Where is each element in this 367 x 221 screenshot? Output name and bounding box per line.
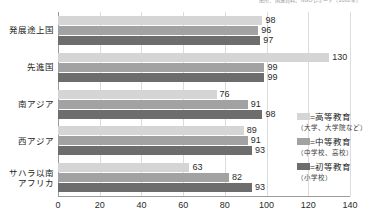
bar-value-label: 96 — [261, 25, 271, 35]
category-label: 発展途上国 — [0, 25, 54, 35]
bar — [58, 110, 262, 119]
bar-value-label: 82 — [232, 172, 242, 182]
legend-label: =中等教育 — [310, 135, 351, 147]
legend-entry: =中等教育（中学校、高校） — [297, 135, 367, 157]
legend-sublabel: （大学、大学院など） — [297, 122, 367, 132]
bar — [58, 63, 264, 72]
bar — [58, 163, 189, 172]
x-axis-line — [58, 196, 350, 197]
bar — [58, 53, 329, 62]
bar-value-label: 63 — [192, 162, 202, 172]
bar-value-label: 91 — [251, 135, 261, 145]
bar-value-label: 93 — [255, 145, 265, 155]
bar — [58, 173, 229, 182]
x-tick-label: 0 — [55, 200, 60, 210]
x-tick-label: 40 — [136, 200, 146, 210]
legend-swatch-icon — [297, 113, 310, 120]
bar — [58, 36, 260, 45]
legend-swatch-icon — [297, 138, 310, 145]
legend-label: =高等教育 — [310, 110, 351, 122]
bar-value-label: 76 — [220, 89, 230, 99]
bar-value-label: 99 — [267, 62, 277, 72]
bar-chart: 9896971309999769198899193638293 発展途上国先進国… — [0, 0, 367, 221]
bar-value-label: 99 — [267, 72, 277, 82]
bar — [58, 26, 258, 35]
bar — [58, 183, 252, 192]
x-tick-label: 20 — [95, 200, 105, 210]
bar-value-label: 93 — [255, 182, 265, 192]
legend-sublabel: （中学校、高校） — [297, 147, 367, 157]
x-tick-label: 100 — [259, 200, 274, 210]
bar-value-label: 98 — [265, 109, 275, 119]
bar — [58, 136, 248, 145]
x-tick-label: 80 — [220, 200, 230, 210]
category-label: 先進国 — [0, 62, 54, 72]
bar — [58, 16, 262, 25]
bar-value-label: 98 — [265, 15, 275, 25]
bar — [58, 100, 248, 109]
bar — [58, 73, 264, 82]
legend-entry: =高等教育（大学、大学院など） — [297, 110, 367, 132]
x-tick-label: 60 — [178, 200, 188, 210]
legend-sublabel: （小学校） — [297, 172, 367, 182]
bar — [58, 146, 252, 155]
x-tick-label: 140 — [342, 200, 357, 210]
bar-value-label: 89 — [247, 125, 257, 135]
bar-value-label: 97 — [263, 35, 273, 45]
category-label: 西アジア — [0, 136, 54, 146]
category-label: 南アジア — [0, 99, 54, 109]
bar-value-label: 130 — [332, 52, 347, 62]
x-tick-label: 120 — [301, 200, 316, 210]
legend-swatch-icon — [297, 163, 310, 170]
bar — [58, 90, 217, 99]
legend-label: =初等教育 — [310, 160, 351, 172]
bar-value-label: 91 — [251, 99, 261, 109]
legend-entry: =初等教育（小学校） — [297, 160, 367, 182]
chart-legend: =高等教育（大学、大学院など）=中等教育（中学校、高校）=初等教育（小学校） — [297, 110, 367, 185]
bar — [58, 126, 244, 135]
category-label: サハラ以南 アフリカ — [0, 168, 54, 188]
